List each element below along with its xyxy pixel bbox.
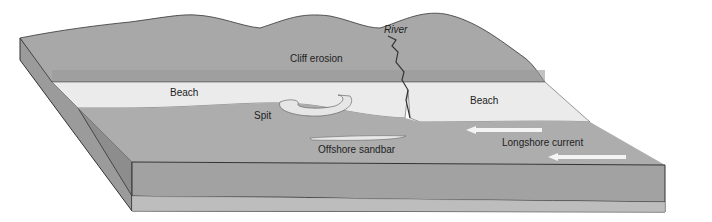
label-beach-right: Beach <box>470 95 498 106</box>
coastal-diagram <box>0 0 712 222</box>
label-cliff-erosion: Cliff erosion <box>290 53 343 64</box>
label-beach-left: Beach <box>170 87 198 98</box>
label-longshore-current: Longshore current <box>502 137 583 148</box>
label-spit: Spit <box>254 110 271 121</box>
label-offshore-sandbar: Offshore sandbar <box>318 144 395 155</box>
label-river: River <box>384 24 407 35</box>
